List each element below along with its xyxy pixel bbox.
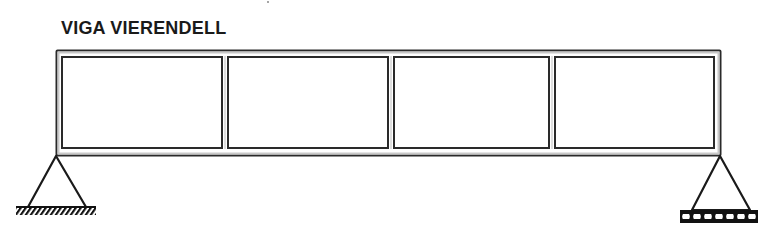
roller-support-right: [680, 156, 758, 223]
vierendeel-beam-diagram: [0, 0, 777, 234]
panel-1: [62, 57, 222, 148]
support-triangle-icon: [28, 156, 86, 207]
beam-panels: [62, 57, 714, 148]
pinned-support-left: [16, 156, 96, 215]
stray-mark: [267, 1, 269, 3]
panel-4: [555, 57, 714, 148]
panel-3: [394, 57, 549, 148]
roller-strip-icon: [680, 210, 758, 223]
ground-hatch-icon: [16, 207, 96, 215]
panel-2: [228, 57, 388, 148]
support-triangle-icon: [692, 156, 750, 210]
